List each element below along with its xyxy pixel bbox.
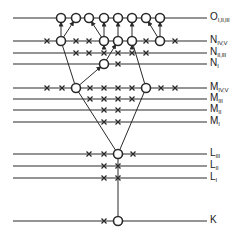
state-circle-icon bbox=[142, 14, 151, 23]
state-circle-icon bbox=[156, 37, 165, 46]
state-circle-icon bbox=[156, 14, 165, 23]
level-subshell: II bbox=[216, 165, 219, 171]
state-circle-icon bbox=[100, 37, 109, 46]
transitions bbox=[61, 22, 160, 217]
level-subshell: I,II,III bbox=[218, 17, 230, 23]
level-subshell: I bbox=[217, 63, 218, 69]
level-label-m1: MI bbox=[210, 116, 220, 129]
transition-arrow bbox=[120, 92, 144, 150]
level-subshell: IV,V bbox=[217, 40, 227, 46]
transition-arrow bbox=[63, 22, 73, 37]
state-circle-icon bbox=[100, 60, 109, 69]
state-circle-icon bbox=[114, 14, 123, 23]
state-circle-icon bbox=[100, 14, 109, 23]
state-circle-icon bbox=[114, 217, 123, 226]
transition-arrow bbox=[148, 22, 157, 37]
level-letter: K bbox=[210, 214, 217, 225]
level-subshell: III bbox=[216, 153, 220, 159]
allowed-states bbox=[57, 14, 165, 226]
state-circle-icon bbox=[85, 14, 94, 23]
state-circle-icon bbox=[57, 37, 66, 46]
state-circle-icon bbox=[72, 14, 81, 23]
state-circle-icon bbox=[72, 84, 81, 93]
level-subshell: I bbox=[218, 121, 219, 127]
forbidden-marks bbox=[45, 39, 178, 224]
state-circle-icon bbox=[128, 14, 137, 23]
transition-arrow bbox=[91, 22, 101, 37]
level-label-l1: LI bbox=[210, 172, 217, 185]
level-subshell: I bbox=[216, 177, 217, 183]
level-subshell: II bbox=[218, 109, 221, 115]
state-circle-icon bbox=[114, 150, 123, 159]
energy-level-diagram bbox=[0, 0, 243, 236]
transition-arrow bbox=[78, 92, 115, 150]
level-label-k: K bbox=[210, 215, 217, 225]
energy-levels bbox=[13, 18, 207, 221]
level-label-o: OI,II,III bbox=[210, 12, 230, 25]
state-circle-icon bbox=[57, 14, 66, 23]
level-label-n1: NI bbox=[210, 58, 219, 71]
state-circle-icon bbox=[142, 84, 151, 93]
level-letter: O bbox=[210, 11, 218, 22]
state-circle-icon bbox=[128, 37, 137, 46]
transition-arrow bbox=[79, 67, 100, 85]
state-circle-icon bbox=[114, 37, 123, 46]
